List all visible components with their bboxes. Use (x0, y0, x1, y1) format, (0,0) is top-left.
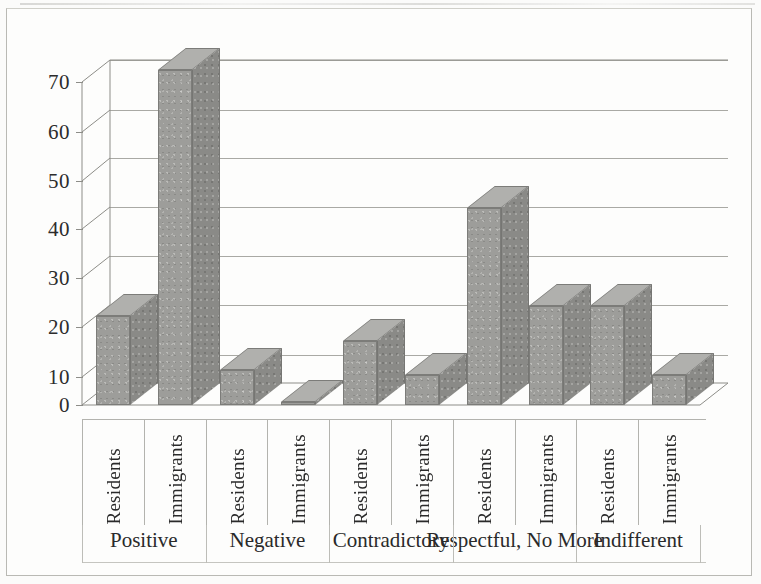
ytick-label-70: 70 (26, 70, 70, 95)
bar-front-face (96, 316, 130, 405)
category-label: Residents (227, 446, 249, 525)
category-cell-2: Residents (206, 420, 268, 525)
category-label: Immigrants (412, 432, 434, 525)
bar-residents-0 (96, 294, 130, 405)
plot-area: 70 60 50 40 30 20 10 0 ResidentsImmigran… (0, 0, 746, 568)
ytick-label-40: 40 (26, 217, 70, 242)
category-cell-6: Residents (453, 420, 515, 525)
ytick-label-50: 50 (26, 169, 70, 194)
group-separator-2 (329, 525, 330, 563)
bar-side-face (192, 48, 220, 405)
category-label: Residents (474, 446, 496, 525)
ytick-70 (76, 82, 83, 83)
category-label: Immigrants (165, 432, 187, 525)
ytick-10 (76, 377, 83, 378)
category-label: Residents (350, 446, 372, 525)
bar-front-face (343, 341, 377, 405)
group-separator-3 (453, 525, 454, 563)
chart-figure: 70 60 50 40 30 20 10 0 ResidentsImmigran… (0, 0, 761, 584)
category-cell-8: Residents (576, 420, 638, 525)
group-separator-4 (576, 525, 577, 563)
bar-residents-6 (467, 186, 501, 405)
category-box-bottom (82, 562, 706, 563)
category-label: Residents (103, 446, 125, 525)
category-cell-3: Immigrants (267, 420, 329, 525)
category-cell-1: Immigrants (144, 420, 206, 525)
category-label: Residents (597, 446, 619, 525)
bar-immigrants-5 (405, 353, 439, 405)
category-label: Immigrants (659, 432, 681, 525)
bar-immigrants-3 (281, 380, 315, 405)
category-cell-4: Residents (329, 420, 391, 525)
bar-front-face (220, 370, 254, 405)
ytick-60 (76, 132, 83, 133)
ytick-50 (76, 181, 83, 182)
category-label: Immigrants (536, 432, 558, 525)
category-cell-7: Immigrants (515, 420, 577, 525)
bar-immigrants-9 (652, 353, 686, 405)
ytick-20 (76, 327, 83, 328)
ytick-30 (76, 278, 83, 279)
ytick-label-0: 0 (26, 393, 70, 418)
bar-side-face (501, 186, 529, 405)
group-separator-1 (206, 525, 207, 563)
bar-immigrants-7 (529, 284, 563, 405)
category-label: Immigrants (288, 432, 310, 525)
bar-residents-8 (590, 284, 624, 405)
bar-immigrants-1 (158, 48, 192, 405)
bar-front-face (467, 208, 501, 405)
bar-front-face (652, 375, 686, 405)
bar-front-face (158, 70, 192, 405)
bar-residents-4 (343, 319, 377, 405)
ytick-label-20: 20 (26, 315, 70, 340)
ytick-40 (76, 229, 83, 230)
bar-front-face (281, 402, 315, 405)
bar-front-face (529, 306, 563, 405)
group-separator-0 (82, 525, 83, 563)
ytick-label-10: 10 (26, 365, 70, 390)
bar-residents-2 (220, 348, 254, 405)
category-cell-0: Residents (82, 420, 144, 525)
ytick-label-30: 30 (26, 266, 70, 291)
bar-front-face (590, 306, 624, 405)
category-cell-5: Immigrants (391, 420, 453, 525)
bar-front-face (405, 375, 439, 405)
category-cell-9: Immigrants (638, 420, 700, 525)
ytick-0 (76, 405, 83, 406)
group-separator-5 (700, 525, 701, 563)
ytick-label-60: 60 (26, 120, 70, 145)
